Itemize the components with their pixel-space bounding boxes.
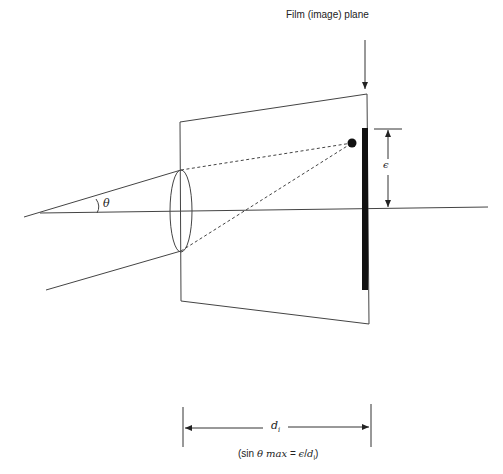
caption-suffix: ): [315, 448, 318, 459]
dashed-ray-top: [181, 143, 352, 170]
lower-ray: [46, 251, 181, 290]
caption-prefix: (sin: [238, 448, 257, 459]
image-point: [348, 139, 357, 148]
theta-arc: [96, 199, 99, 213]
caption-equals: =: [287, 448, 298, 459]
sin-theta-caption: (sin θ max = ϵ/di): [238, 448, 318, 461]
camera-diagram: [0, 0, 503, 474]
theta-label: θ: [103, 197, 110, 210]
distance-subscript: i: [278, 426, 280, 434]
dashed-ray-bottom: [181, 143, 352, 251]
film-plane-label: Film (image) plane: [286, 9, 369, 20]
distance-d: d: [271, 419, 278, 432]
film-strip: [362, 128, 368, 290]
caption-max: max: [263, 448, 287, 459]
epsilon-label: ϵ: [383, 159, 389, 170]
distance-label: di: [271, 419, 280, 434]
